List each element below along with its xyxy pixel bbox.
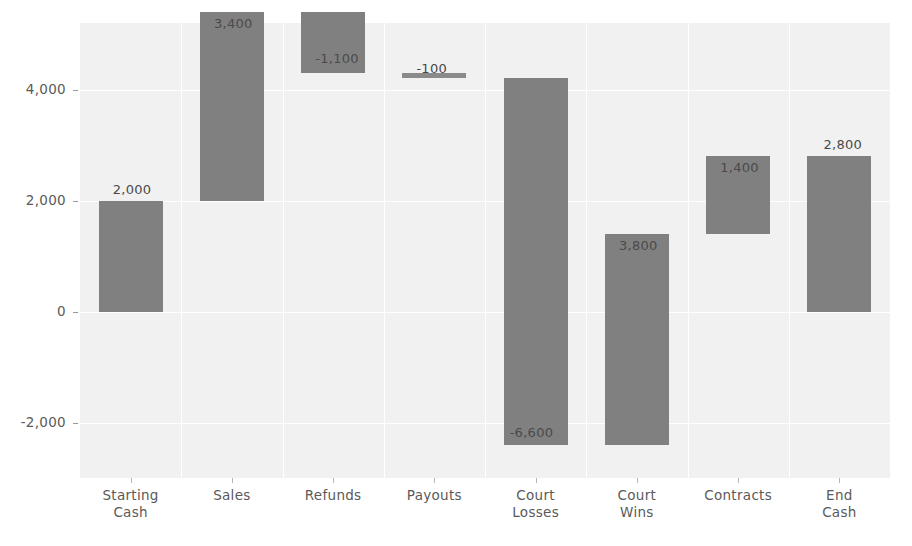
- x-tick-mark: [738, 478, 739, 483]
- x-tick-label: Court Losses: [485, 487, 586, 521]
- x-tick-mark: [131, 478, 132, 483]
- x-tick-label: Sales: [181, 487, 282, 504]
- x-tick-label: Payouts: [384, 487, 485, 504]
- bar[interactable]: [605, 234, 669, 445]
- bar-value-label: -100: [416, 61, 447, 76]
- x-tick-label: Refunds: [283, 487, 384, 504]
- x-tick-mark: [637, 478, 638, 483]
- bar-value-label: 3,400: [214, 16, 253, 31]
- gridline-vertical: [789, 23, 790, 478]
- x-tick-mark: [536, 478, 537, 483]
- bar[interactable]: [807, 156, 871, 311]
- y-tick-label: 2,000: [26, 192, 66, 208]
- gridline-vertical: [283, 23, 284, 478]
- waterfall-chart: -2,00002,0004,000 2,0003,400-1,100-100-6…: [0, 0, 912, 546]
- y-tick-label: 0: [57, 303, 66, 319]
- bar-value-label: 2,000: [113, 182, 152, 197]
- y-tick-mark: [73, 312, 78, 313]
- y-tick-mark: [73, 90, 78, 91]
- y-tick-mark: [73, 423, 78, 424]
- bar-value-label: 2,800: [823, 137, 862, 152]
- bar-value-label: -6,600: [510, 425, 554, 440]
- gridline-vertical: [384, 23, 385, 478]
- gridline-vertical: [485, 23, 486, 478]
- gridline-vertical: [586, 23, 587, 478]
- y-tick-label: 4,000: [26, 81, 66, 97]
- x-tick-mark: [839, 478, 840, 483]
- gridline-vertical: [688, 23, 689, 478]
- bar-value-label: -1,100: [315, 51, 359, 66]
- y-tick-mark: [73, 201, 78, 202]
- x-tick-mark: [434, 478, 435, 483]
- bar-value-label: 3,800: [619, 238, 658, 253]
- bar[interactable]: [99, 201, 163, 312]
- gridline-vertical: [181, 23, 182, 478]
- x-tick-label: Court Wins: [586, 487, 687, 521]
- x-tick-mark: [232, 478, 233, 483]
- x-tick-label: End Cash: [789, 487, 890, 521]
- plot-area: 2,0003,400-1,100-100-6,6003,8001,4002,80…: [80, 23, 890, 478]
- bar-value-label: 1,400: [720, 160, 759, 175]
- x-tick-label: Starting Cash: [80, 487, 181, 521]
- y-tick-label: -2,000: [21, 414, 66, 430]
- x-axis: Starting CashSalesRefundsPayoutsCourt Lo…: [80, 478, 890, 546]
- bar[interactable]: [200, 12, 264, 201]
- x-tick-label: Contracts: [688, 487, 789, 504]
- y-axis: -2,00002,0004,000: [0, 0, 80, 546]
- bar[interactable]: [504, 78, 568, 444]
- x-tick-mark: [333, 478, 334, 483]
